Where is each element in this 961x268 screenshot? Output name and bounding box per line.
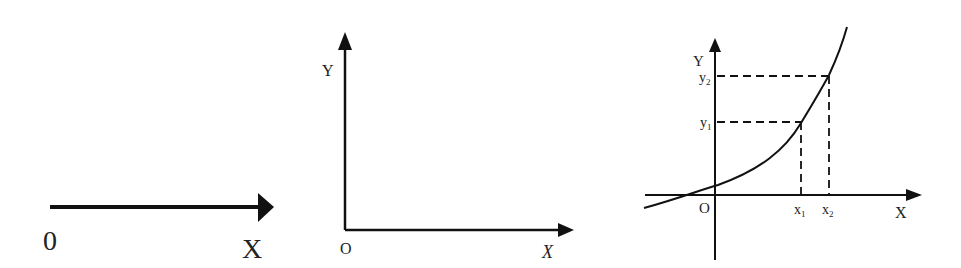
function-curve: [644, 27, 847, 208]
y-axis-label: Y: [693, 53, 704, 69]
x-axis-label: X: [895, 204, 907, 221]
diagram-canvas: 0 X Y O X Y y2 y1 O x1 x2 X: [0, 0, 961, 268]
function-graph-diagram: Y y2 y1 O x1 x2 X: [644, 27, 922, 260]
arrow-right-icon: [906, 189, 922, 201]
arrow-up-icon: [709, 38, 721, 52]
origin-label: O: [699, 200, 710, 216]
arrow-right-icon: [558, 223, 574, 237]
y1-label: y1: [700, 115, 712, 132]
number-line-origin-label: 0: [43, 225, 57, 256]
number-line-diagram: 0 X: [43, 193, 274, 264]
y-axis-label: Y: [322, 62, 334, 79]
origin-label: O: [340, 240, 352, 257]
empty-axes-diagram: Y O X: [322, 32, 574, 262]
x2-label: x2: [822, 202, 834, 219]
x1-label: x1: [794, 202, 806, 219]
number-line-x-label: X: [242, 233, 262, 264]
x-axis-label: X: [541, 242, 554, 262]
arrow-up-icon: [338, 32, 352, 50]
y2-label: y2: [699, 70, 711, 87]
arrow-right-icon: [258, 193, 274, 222]
